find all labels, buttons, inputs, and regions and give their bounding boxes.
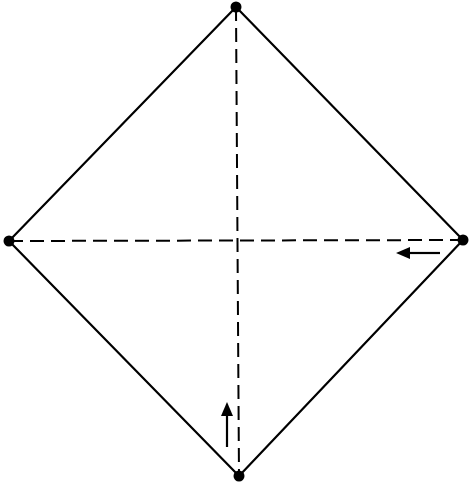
fold-lines bbox=[9, 7, 463, 476]
arrow-left-icon bbox=[396, 247, 440, 259]
arrow-up-icon bbox=[221, 402, 233, 447]
vertex-dot-left bbox=[4, 236, 15, 247]
vertical-dashed-fold-line bbox=[236, 7, 239, 476]
fold-diagram bbox=[0, 0, 475, 494]
vertex-dot-bottom bbox=[234, 471, 245, 482]
vertex-dot-right bbox=[458, 235, 469, 246]
horizontal-dashed-fold-line bbox=[9, 240, 463, 241]
vertex-dot-top bbox=[231, 2, 242, 13]
